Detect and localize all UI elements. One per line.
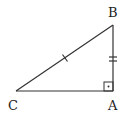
right-angle-dot (108, 86, 110, 88)
label-b: B (108, 5, 118, 20)
triangle-diagram: B C A (0, 0, 124, 118)
label-c: C (8, 98, 18, 113)
label-a: A (107, 98, 118, 113)
single-tick-mark (63, 55, 68, 62)
